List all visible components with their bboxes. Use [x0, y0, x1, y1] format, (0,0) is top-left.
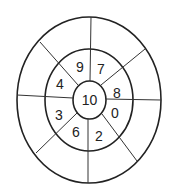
segment-value: 9: [76, 59, 84, 75]
segment-value: 2: [95, 128, 103, 144]
segment-value: 4: [56, 76, 64, 92]
segment-value: 3: [55, 107, 63, 123]
segment-value: 6: [72, 124, 80, 140]
segment-value: 7: [97, 61, 105, 77]
segment-value: 8: [113, 85, 121, 101]
center-value: 10: [82, 92, 98, 108]
segment-value: 0: [111, 105, 119, 121]
ring-diagram: 10 9 7 4 8 3 0 6 2: [0, 0, 170, 194]
